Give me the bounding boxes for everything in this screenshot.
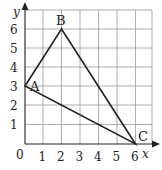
x-axis-arrow-icon (152, 141, 160, 148)
coordinate-diagram: 1 2 3 4 5 6 1 2 3 4 5 6 0 y x A B C (0, 0, 162, 170)
y-tick-4: 4 (10, 61, 18, 75)
origin-label: 0 (16, 148, 24, 162)
x-tick-labels: 1 2 3 4 5 6 (39, 150, 139, 164)
x-tick-1: 1 (39, 150, 47, 164)
x-tick-4: 4 (94, 150, 102, 164)
x-tick-3: 3 (76, 150, 84, 164)
x-tick-5: 5 (113, 150, 121, 164)
x-axis-label: x (142, 147, 149, 161)
y-tick-2: 2 (10, 99, 18, 113)
x-tick-2: 2 (57, 150, 65, 164)
y-axis-arrow-icon (22, 2, 29, 10)
y-tick-labels: 1 2 3 4 5 6 (10, 23, 18, 132)
y-tick-3: 3 (10, 80, 18, 94)
x-tick-6: 6 (131, 150, 139, 164)
y-axis-label: y (12, 5, 20, 19)
grid (25, 10, 152, 144)
y-tick-5: 5 (10, 42, 18, 56)
point-b-label: B (56, 13, 66, 28)
point-a-label: A (29, 79, 40, 94)
y-tick-6: 6 (10, 23, 18, 37)
y-tick-1: 1 (10, 118, 18, 132)
point-c-label: C (138, 129, 148, 144)
